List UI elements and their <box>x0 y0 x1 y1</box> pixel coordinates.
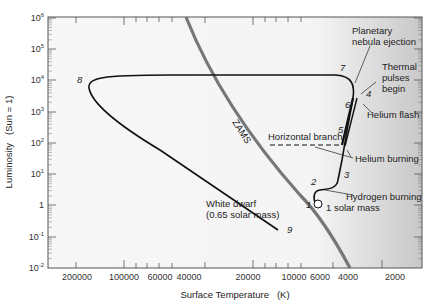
svg-text:4000: 4000 <box>338 272 358 282</box>
svg-text:10-1: 10-1 <box>29 231 45 242</box>
svg-text:20000: 20000 <box>235 272 260 282</box>
svg-text:100000: 100000 <box>109 272 139 282</box>
svg-text:8: 8 <box>77 74 83 85</box>
svg-text:40000: 40000 <box>176 272 201 282</box>
hydrogen-burning-label: Hydrogen burning <box>346 191 422 202</box>
svg-text:5: 5 <box>338 124 344 135</box>
svg-text:101: 101 <box>31 168 45 179</box>
svg-text:6: 6 <box>345 99 351 110</box>
svg-text:200000: 200000 <box>62 272 92 282</box>
svg-text:105: 105 <box>31 43 45 54</box>
hr-diagram: 106 105 104 103 102 101 1 10-1 10-2 2000… <box>0 0 435 308</box>
planetary-nebula-label: Planetary <box>352 25 392 36</box>
svg-text:2000: 2000 <box>385 272 405 282</box>
svg-text:1: 1 <box>39 200 44 210</box>
helium-burning-label: Helium burning <box>355 153 419 164</box>
horizontal-branch-label: Horizontal branch <box>268 131 342 142</box>
sun-marker <box>314 200 322 208</box>
thermal-pulses-label-2: pulses <box>382 72 410 83</box>
y-axis-title: Luminosity(Sun = 1) <box>3 96 14 189</box>
svg-text:7: 7 <box>340 62 346 73</box>
svg-text:1: 1 <box>306 199 311 210</box>
svg-text:9: 9 <box>287 224 293 235</box>
solar-mass-label: 1 solar mass <box>326 202 380 213</box>
svg-text:103: 103 <box>31 106 45 117</box>
planetary-nebula-label-2: nebula ejection <box>352 36 416 47</box>
svg-text:102: 102 <box>31 137 45 148</box>
x-axis-title: Surface Temperature(K) <box>180 289 289 300</box>
svg-text:6000: 6000 <box>310 272 330 282</box>
thermal-pulses-label: Thermal <box>382 61 417 72</box>
white-dwarf-label: White dwarf <box>206 198 257 209</box>
helium-flash-label: Helium flash <box>367 109 419 120</box>
y-tick-labels: 106 105 104 103 102 101 1 10-1 10-2 <box>29 12 45 273</box>
plot-area <box>48 17 422 268</box>
svg-text:2: 2 <box>310 176 317 187</box>
svg-text:60000: 60000 <box>147 272 172 282</box>
svg-text:10-2: 10-2 <box>29 262 45 273</box>
svg-text:3: 3 <box>344 169 350 180</box>
svg-text:104: 104 <box>31 74 45 85</box>
thermal-pulses-label-3: begin <box>382 83 405 94</box>
svg-text:4: 4 <box>366 88 371 99</box>
white-dwarf-label-2: (0.65 solar mass) <box>206 209 279 220</box>
svg-text:10000: 10000 <box>281 272 306 282</box>
x-tick-labels: 200000 100000 60000 40000 20000 10000 60… <box>62 272 405 282</box>
svg-text:106: 106 <box>31 12 45 23</box>
